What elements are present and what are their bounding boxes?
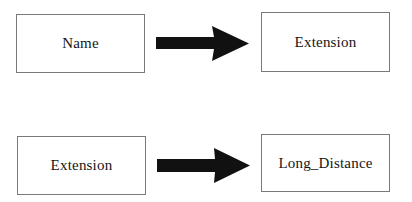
target-node-long-distance: Long_Distance	[261, 134, 390, 192]
right-arrow-icon	[157, 147, 251, 184]
node-label: Extension	[295, 34, 357, 51]
right-arrow-icon	[156, 25, 250, 62]
target-node-extension: Extension	[261, 12, 390, 72]
source-node-name: Name	[16, 14, 145, 73]
source-node-extension: Extension	[17, 136, 146, 195]
node-label: Long_Distance	[278, 155, 372, 172]
node-label: Name	[62, 35, 99, 52]
node-label: Extension	[51, 157, 113, 174]
